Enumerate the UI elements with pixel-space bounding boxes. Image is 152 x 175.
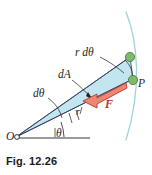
- angle-increment-label: dθ: [33, 88, 44, 100]
- point-P-label: P: [138, 78, 145, 90]
- force-label: F: [105, 98, 113, 110]
- vector-diagram: [0, 0, 152, 152]
- origin-marker: [15, 135, 20, 140]
- figure-caption: Fig. 12.26: [6, 155, 57, 167]
- arc-length-label: r dθ: [75, 47, 94, 59]
- radius-label-tick: [80, 107, 82, 114]
- origin-label: O: [6, 131, 14, 143]
- polar-angle-label: θ: [56, 128, 62, 140]
- point-P-marker: [128, 75, 137, 84]
- dtheta-tick-a: [69, 113, 72, 123]
- area-element-label: dA: [58, 69, 71, 81]
- radius-label: r: [76, 107, 80, 117]
- figure-12-26: r dθ dA dθ r θ O P F Fig. 12.26: [0, 0, 152, 175]
- point-upper-marker: [125, 52, 134, 61]
